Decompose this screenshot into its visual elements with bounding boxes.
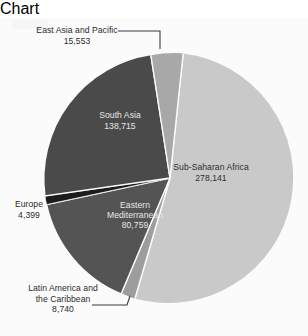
slice-label-south-asia: South Asia 138,715	[79, 110, 161, 131]
slice-label-name: Europe	[15, 199, 43, 209]
slice-label-name-line1: Eastern	[120, 200, 150, 210]
slice-label-east-asia-pacific: East Asia and Pacific 15,553	[18, 25, 136, 46]
slice-label-europe: Europe 4,399	[1, 199, 57, 220]
slice-label-value: 15,553	[18, 36, 136, 47]
slice-label-sub-saharan-africa: Sub-Saharan Africa 278,141	[163, 162, 259, 183]
slice-label-name: Sub-Saharan Africa	[173, 162, 248, 172]
slice-label-name: South Asia	[99, 110, 141, 120]
slice-label-eastern-mediterranean: Eastern Mediterranean 80,759	[96, 200, 174, 231]
slice-label-value: 278,141	[163, 173, 259, 184]
slice-label-value: 138,715	[79, 121, 161, 132]
slice-label-name-line2: Mediterranean	[96, 210, 174, 220]
slice-label-value: 4,399	[1, 210, 57, 221]
slice-label-latin-america-caribbean: Latin America and the Caribbean 8,740	[11, 283, 115, 315]
slice-label-value: 80,759	[96, 220, 174, 230]
slice-label-value: 8,740	[11, 304, 115, 315]
slice-label-name-line2: the Caribbean	[11, 294, 115, 305]
slice-label-name: East Asia and Pacific	[36, 25, 117, 35]
slice-label-name-line1: Latin America and	[28, 283, 98, 293]
pie-chart-figure: East Asia and Pacific 15,553 Sub-Saharan…	[0, 18, 308, 336]
